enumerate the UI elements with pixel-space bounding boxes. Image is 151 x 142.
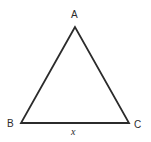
geometry-figure-canvas: A B C x	[0, 0, 151, 142]
triangle-abc-shape	[21, 27, 129, 123]
vertex-label-c: C	[134, 120, 141, 130]
vertex-label-a: A	[71, 10, 78, 20]
triangle-svg	[0, 0, 151, 142]
side-label-base-x: x	[71, 127, 75, 137]
vertex-label-b: B	[7, 119, 14, 129]
